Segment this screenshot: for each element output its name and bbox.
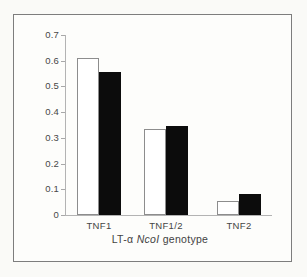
x-tick-label: TNF1 [69,220,129,231]
x-axis-title-text: LT-α [112,233,137,245]
bar-tnf1-2-open-bars [144,129,166,215]
y-tick-mark [61,35,65,36]
x-axis-title-text: genotype [159,233,208,245]
y-tick-mark [61,189,65,190]
y-tick-label: 0.1 [33,184,59,194]
y-tick-label: 0.4 [33,107,59,117]
bar-tnf2-open-bars [217,201,239,215]
y-tick-mark [61,61,65,62]
scanned-figure-page: 00.10.20.30.40.50.60.7TNF1TNF1/2TNF2LT-α… [0,0,307,277]
x-axis-title-enzyme: NcoI [137,233,160,245]
bar-chart: 00.10.20.30.40.50.60.7TNF1TNF1/2TNF2LT-α… [14,15,291,261]
y-tick-mark [61,215,65,216]
y-tick-label: 0.2 [33,159,59,169]
x-tick-label: TNF2 [209,220,269,231]
y-axis-line [65,35,66,216]
bar-tnf1-2-solid-bars [166,126,188,215]
y-tick-label: 0.5 [33,81,59,91]
y-tick-mark [61,138,65,139]
x-axis-line [65,215,272,216]
y-tick-mark [61,112,65,113]
bar-tnf2-solid-bars [239,194,261,215]
y-tick-label: 0.6 [33,56,59,66]
bar-tnf1-open-bars [77,58,99,215]
y-tick-label: 0 [33,210,59,220]
chart-frame: 00.10.20.30.40.50.60.7TNF1TNF1/2TNF2LT-α… [13,14,292,262]
bar-tnf1-solid-bars [99,72,121,215]
y-tick-mark [61,86,65,87]
y-tick-mark [61,164,65,165]
x-tick-label: TNF1/2 [136,220,196,231]
y-tick-label: 0.3 [33,133,59,143]
y-tick-label: 0.7 [33,30,59,40]
x-axis-title: LT-α NcoI genotype [90,233,230,245]
